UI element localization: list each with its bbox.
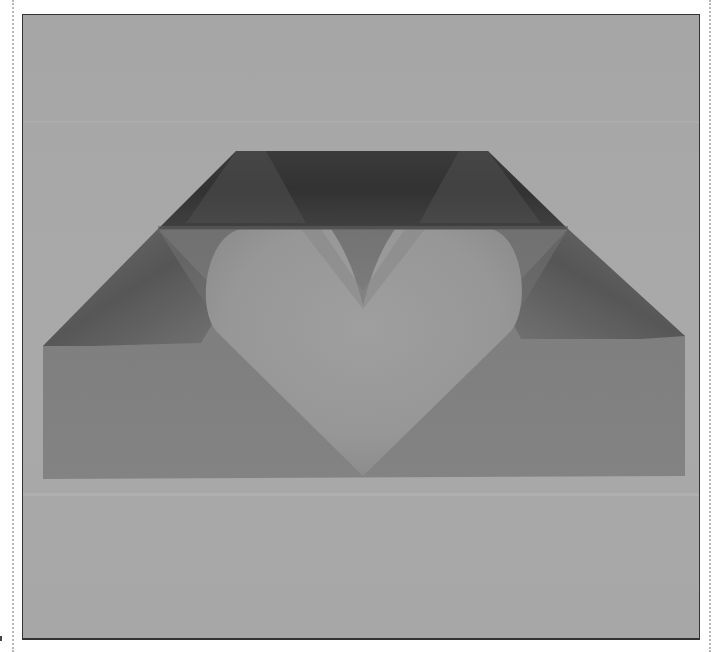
- corner-tick-mark: [0, 636, 2, 641]
- dotted-guide-right: [709, 0, 711, 652]
- dotted-guide-left: [12, 0, 14, 652]
- page: [0, 0, 716, 652]
- origami-photo: [23, 15, 699, 638]
- photo-frame: [22, 14, 700, 640]
- film-grain: [23, 15, 699, 638]
